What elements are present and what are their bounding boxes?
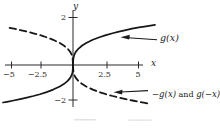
x-tick-label-neg2p5: −2.5 (28, 70, 47, 79)
solid-curve-label: g(x) (160, 32, 179, 43)
dashed-curve-upper-left (6, 27, 73, 65)
y-tick-label-neg2: −2 (54, 96, 66, 105)
dashed-curve-arrow-line (121, 91, 148, 92)
x-axis-label: x (151, 58, 156, 68)
solid-curve-arrow-line (128, 38, 157, 40)
dashed-curve-label-and: and (176, 90, 196, 99)
function-graph-figure: y x 2 −2 −5 −2.5 2.5 5 g(x) −g(x) and g(… (0, 0, 220, 130)
x-tick-label-neg5: −5 (3, 70, 15, 79)
x-tick-label-5: 5 (135, 70, 140, 79)
caption-remnant-right (128, 119, 152, 120)
y-tick-label-2: 2 (61, 13, 66, 22)
y-axis-label: y (72, 1, 79, 11)
x-tick-label-2p5: 2.5 (98, 70, 111, 79)
solid-curve-upper-right (73, 25, 155, 65)
solid-curve-arrow-head-icon (121, 35, 130, 40)
dashed-curve-arrow-head-icon (114, 90, 123, 95)
dashed-curve-label-part3: g(−x) (196, 89, 220, 99)
dashed-curve-label-part1: −g(x) (152, 89, 176, 99)
dashed-curve-label: −g(x) and g(−x) (152, 89, 220, 99)
caption-remnant-left (74, 119, 96, 121)
plot-canvas: y x 2 −2 −5 −2.5 2.5 5 g(x) −g(x) and g(… (0, 0, 220, 130)
